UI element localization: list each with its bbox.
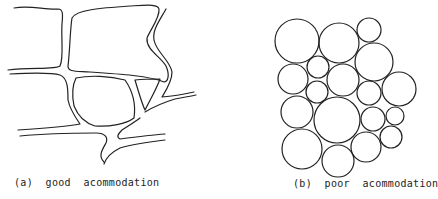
packed-circle (306, 81, 328, 103)
packed-circle (319, 23, 359, 63)
panel-b-poor-accommodation (275, 18, 416, 177)
cell-boundary (8, 7, 63, 70)
cell-boundary (73, 76, 135, 126)
packed-circle (327, 64, 359, 96)
packed-circle (380, 126, 402, 148)
cell-boundary (145, 95, 196, 112)
packed-circle (282, 129, 322, 169)
packed-circle (382, 72, 416, 106)
cell-boundary (10, 73, 80, 130)
packed-circle (307, 56, 329, 78)
packed-circle (281, 96, 313, 128)
caption-good-accommodation: (a) good acommodation (14, 177, 159, 188)
caption-poor-accommodation: (b) poor acommodation (293, 178, 438, 189)
cell-boundary (154, 9, 194, 97)
cell-boundary (135, 79, 160, 110)
cell-boundary (118, 118, 165, 139)
packed-circle (314, 97, 360, 143)
packed-circle (351, 132, 381, 162)
packed-circle (357, 18, 381, 42)
packed-circle (357, 81, 381, 105)
packed-circle (278, 64, 308, 94)
packed-circle (322, 145, 354, 177)
panel-a-good-accommodation (8, 5, 196, 164)
packed-circle (355, 43, 393, 81)
packed-circle (386, 107, 404, 125)
packed-circle (275, 19, 319, 63)
cell-boundary (68, 5, 168, 82)
cell-boundary (20, 133, 107, 162)
packed-circle (361, 107, 385, 131)
cell-boundary (104, 140, 165, 164)
